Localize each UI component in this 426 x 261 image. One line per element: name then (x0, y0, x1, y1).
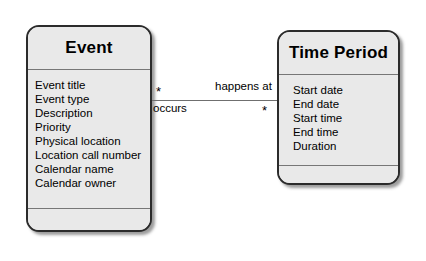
class-box-time-period[interactable]: Time Period Start date End date Start ti… (277, 30, 400, 185)
attribute-item: Priority (35, 120, 150, 134)
attribute-item: Description (35, 106, 150, 120)
attribute-item: Calendar owner (35, 176, 150, 190)
diagram-canvas: Event Event title Event type Description… (0, 0, 426, 261)
attribute-item: End date (293, 97, 398, 111)
attribute-item: Start time (293, 111, 398, 125)
attribute-item: Start date (293, 83, 398, 97)
class-name-event: Event (28, 27, 150, 70)
operation-compartment-time-period (279, 166, 398, 183)
attribute-item: Location call number (35, 148, 150, 162)
class-box-event[interactable]: Event Event title Event type Description… (26, 25, 152, 232)
attribute-item: Duration (293, 139, 398, 153)
association-line[interactable] (152, 100, 277, 101)
association-role-label-occurs: occurs (153, 102, 187, 114)
source-multiplicity: * (156, 85, 161, 98)
attribute-item: Calendar name (35, 162, 150, 176)
attribute-item: End time (293, 125, 398, 139)
target-multiplicity: * (262, 104, 267, 117)
attribute-item: Event title (35, 78, 150, 92)
class-name-time-period: Time Period (279, 32, 398, 75)
attribute-item: Physical location (35, 134, 150, 148)
association-role-label-happens-at: happens at (215, 80, 272, 92)
attribute-compartment-event: Event title Event type Description Prior… (28, 70, 150, 209)
attribute-item: Event type (35, 92, 150, 106)
attribute-compartment-time-period: Start date End date Start time End time … (279, 75, 398, 166)
operation-compartment-event (28, 209, 150, 230)
